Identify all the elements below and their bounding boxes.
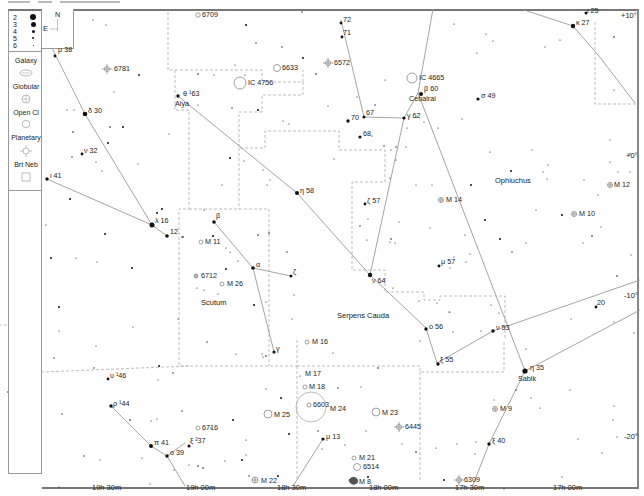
dso-label[interactable]: 6514: [363, 463, 379, 471]
dso-label[interactable]: M 12: [614, 181, 630, 189]
star-label[interactable]: ζ: [293, 268, 296, 276]
star-label[interactable]: γ: [276, 345, 280, 353]
star-label[interactable]: ι 25: [587, 7, 599, 15]
star-label[interactable]: α: [256, 261, 260, 269]
dso-label[interactable]: 6572: [334, 59, 350, 67]
dso-label[interactable]: M 26: [227, 280, 243, 288]
star-label[interactable]: μ 38: [58, 46, 72, 54]
star-label[interactable]: 70: [351, 114, 359, 122]
constellation-boundaries: [0, 12, 637, 480]
star-chart-canvas: [0, 0, 644, 496]
ra-label: 18h 30m: [277, 483, 306, 492]
compass-arrows-icon: [42, 9, 74, 49]
legend-panel: 2 3 4 5 6 Galaxy Globular Open Cl Planet…: [8, 9, 42, 474]
star-label[interactable]: β 60: [424, 85, 438, 93]
legend-divider: [9, 190, 42, 191]
star-label[interactable]: σ 49: [481, 92, 495, 100]
dso-label[interactable]: IC 4756: [248, 79, 273, 87]
ra-label: 19h 30m: [92, 483, 121, 492]
star-label[interactable]: 67: [366, 109, 374, 117]
star-label[interactable]: 12: [170, 228, 178, 236]
constellation-name-ophiuchus: Ophiuchus: [495, 176, 531, 185]
star-label[interactable]: ξ 55: [440, 356, 453, 364]
dec-label: +0°: [626, 151, 638, 160]
dso-label[interactable]: M 21: [359, 454, 375, 462]
dso-label[interactable]: 6633: [282, 64, 298, 72]
dso-label[interactable]: M 10: [579, 210, 595, 218]
star-label[interactable]: κ 27: [576, 19, 590, 27]
bright-nebula-icon: [9, 172, 43, 182]
dec-label: -20°: [624, 432, 638, 441]
star-label[interactable]: η 35: [530, 364, 544, 372]
dso-label[interactable]: M 24: [330, 405, 346, 413]
star-label[interactable]: η 58: [300, 187, 314, 195]
star-label[interactable]: 68: [363, 130, 371, 138]
dso-label[interactable]: M 16: [312, 338, 328, 346]
star-label[interactable]: ζ 57: [367, 197, 380, 205]
legend-label-bright-nebula: Brt Neb: [9, 161, 43, 168]
constellation-lines: [44, 9, 640, 486]
star-label[interactable]: δ 30: [88, 107, 102, 115]
open-cluster-icon: [9, 119, 43, 129]
dso-label[interactable]: 6781: [114, 65, 130, 73]
legend-label-globular: Globular: [9, 83, 43, 90]
legend-label-planetary: Planetary: [9, 134, 43, 141]
star-label[interactable]: ρ ¹44: [113, 400, 129, 408]
star-label[interactable]: θ ¹63: [183, 90, 199, 98]
dso-label[interactable]: M 18: [309, 383, 325, 391]
legend-label-galaxy: Galaxy: [9, 57, 43, 64]
dso-label[interactable]: M 25: [274, 411, 290, 419]
dso-label[interactable]: M 9: [500, 405, 512, 413]
star-mag-6-icon: [33, 45, 34, 46]
star-label[interactable]: ξ 40: [492, 437, 505, 445]
star-label[interactable]: β: [216, 212, 220, 220]
compass-rose: N E: [42, 9, 74, 49]
ra-label: 18h 00m: [369, 483, 398, 492]
dso-label[interactable]: M 14: [446, 196, 462, 204]
star-label[interactable]: υ ¹46: [110, 372, 126, 380]
constellation-name-scutum: Scutum: [201, 298, 226, 307]
star-label[interactable]: 71: [343, 29, 351, 37]
star-label[interactable]: π 41: [154, 439, 169, 447]
dso-label[interactable]: M 17: [305, 370, 321, 378]
dso-label[interactable]: 6603: [313, 401, 329, 409]
dec-label: -10°: [624, 291, 638, 300]
star-label-cebalrai[interactable]: Cebalrai: [409, 95, 436, 103]
constellation-name-serpens-cauda: Serpens Cauda: [337, 311, 389, 320]
dec-label: +10°: [621, 11, 637, 20]
star-label[interactable]: ν 53: [496, 324, 510, 332]
galaxy-icon: [9, 69, 43, 77]
star-label-alya[interactable]: Alya: [175, 100, 189, 108]
star-label[interactable]: μ 13: [326, 433, 340, 441]
star-mag-2-icon: [30, 14, 36, 20]
star-mag-5-icon: [32, 37, 34, 39]
star-label[interactable]: ξ ²37: [190, 437, 206, 445]
dso-label[interactable]: M 22: [261, 477, 277, 485]
star-label[interactable]: 20: [597, 299, 605, 307]
ra-label: 17h 30m: [455, 483, 484, 492]
star-mag-4-icon: [32, 30, 35, 33]
legend-label-open-cluster: Open Cl: [9, 109, 43, 116]
dso-label[interactable]: 6709: [202, 11, 218, 19]
dso-label[interactable]: M 23: [382, 409, 398, 417]
planetary-nebula-icon: [9, 145, 43, 157]
star-label[interactable]: ν 32: [84, 147, 98, 155]
dso-label[interactable]: 6445: [405, 423, 421, 431]
star-label[interactable]: 72: [343, 16, 351, 24]
legend-divider: [9, 51, 42, 52]
star-label-sabik[interactable]: Sabik: [518, 375, 536, 383]
star-label[interactable]: ο 39: [170, 449, 184, 457]
star-label[interactable]: γ 62: [407, 112, 421, 120]
star-label[interactable]: ο 56: [429, 323, 443, 331]
dso-label[interactable]: 6712: [201, 272, 217, 280]
star-label[interactable]: ι 41: [50, 172, 62, 180]
dso-label[interactable]: 6716: [202, 424, 218, 432]
dso-label[interactable]: IC 4665: [419, 74, 444, 82]
star-label[interactable]: λ 16: [155, 217, 169, 225]
star-mag-3-icon: [31, 22, 36, 27]
star-label[interactable]: μ 57: [441, 258, 455, 266]
dso-label[interactable]: M 11: [205, 238, 220, 246]
globular-cluster-icon: [9, 94, 43, 104]
star-label[interactable]: ν 64: [372, 277, 386, 285]
ra-label: 17h 00m: [553, 483, 582, 492]
